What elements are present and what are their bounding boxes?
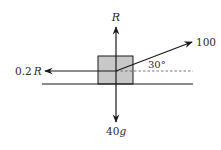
weight-label: 40g	[106, 125, 126, 137]
normal-force-label: R	[111, 11, 120, 24]
weight-gravity-symbol: g	[119, 125, 126, 137]
force-diagram: R 100 30° 0.2R 40g	[0, 0, 221, 150]
applied-force-label: 100	[196, 36, 216, 48]
friction-symbol: R	[33, 65, 42, 77]
weight-mass: 40	[106, 125, 119, 137]
friction-force-label: 0.2R	[15, 65, 42, 77]
angle-label: 30°	[148, 59, 166, 70]
friction-coefficient: 0.2	[15, 65, 32, 77]
